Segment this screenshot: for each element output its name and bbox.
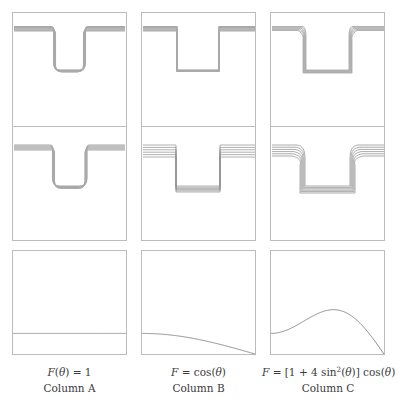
panel-c-row1	[271, 13, 385, 127]
caption-b-name: Column B	[141, 382, 256, 394]
column-a-group	[13, 13, 127, 355]
panel-a-row1	[13, 13, 127, 127]
panel-b-row1	[142, 13, 256, 127]
caption-c-equation: F = [1 + 4 sin2(θ)] cos(θ)	[262, 366, 395, 378]
caption-c-name: Column C	[262, 382, 394, 394]
panel-frame	[13, 127, 127, 241]
panel-frame	[13, 251, 127, 355]
panel-b-row2	[142, 127, 256, 241]
panel-a-row2	[13, 127, 127, 241]
panel-b-row3	[142, 251, 256, 355]
panel-c-row2	[271, 127, 385, 241]
panel-frame	[271, 251, 385, 355]
column-c-group	[271, 13, 385, 355]
caption-b-equation: F = cos(θ)	[171, 366, 226, 378]
panel-c-row3	[271, 251, 385, 355]
panel-a-row3	[13, 251, 127, 355]
panel-frame	[142, 127, 256, 241]
profile-evolution-figure	[0, 0, 398, 398]
caption-column-a: F(θ) = 1 Column A	[12, 362, 127, 394]
column-b-group	[142, 13, 256, 355]
panel-frame	[271, 127, 385, 241]
caption-a-equation: F(θ) = 1	[48, 366, 92, 378]
panel-frame	[142, 251, 256, 355]
caption-a-name: Column A	[12, 382, 127, 394]
caption-column-b: F = cos(θ) Column B	[141, 362, 256, 394]
caption-column-c: F = [1 + 4 sin2(θ)] cos(θ) Column C	[262, 362, 394, 394]
